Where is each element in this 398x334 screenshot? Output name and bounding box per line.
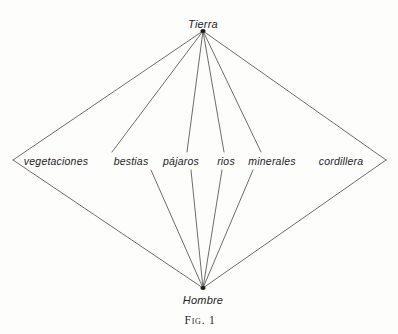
edge-5 bbox=[191, 170, 203, 288]
edge-10 bbox=[203, 31, 386, 160]
vertex-dot-1 bbox=[200, 286, 205, 290]
node-label-hombre: Hombre bbox=[183, 294, 223, 306]
figure-canvas: Tierra Hombre vegetacionesbestiaspájaros… bbox=[0, 0, 398, 334]
diagram-edges bbox=[0, 0, 398, 334]
node-label-2: pájaros bbox=[163, 155, 199, 167]
node-label-4: minerales bbox=[248, 155, 295, 167]
edge-7 bbox=[203, 170, 222, 288]
edge-0 bbox=[13, 31, 203, 160]
figure-caption: Fig. 1 bbox=[184, 314, 215, 326]
node-label-tierra: Tierra bbox=[188, 18, 218, 30]
node-label-3: rios bbox=[217, 155, 235, 167]
edge-6 bbox=[203, 31, 224, 152]
node-label-5: cordillera bbox=[319, 155, 364, 167]
edge-8 bbox=[203, 31, 261, 152]
node-label-1: bestias bbox=[114, 155, 149, 167]
node-label-0: vegetaciones bbox=[24, 155, 88, 167]
vertex-dot-group bbox=[200, 29, 205, 290]
